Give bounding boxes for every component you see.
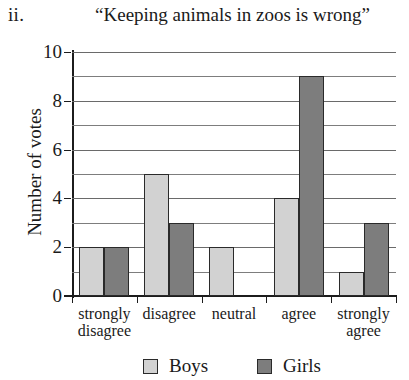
gridline — [72, 52, 396, 53]
x-tick-mark — [266, 296, 267, 303]
bar-chart-figure: ii. “Keeping animals in zoos is wrong” N… — [0, 0, 409, 380]
figure-number-label: ii. — [8, 4, 24, 26]
boys-swatch — [143, 359, 158, 374]
category-label-strongly-agree: stronglyagree — [321, 305, 406, 339]
plot-area — [72, 52, 396, 296]
y-tick-label: 0 — [28, 286, 62, 305]
y-tick-mark — [64, 247, 71, 248]
bar-boys-disagree — [144, 174, 169, 296]
y-tick-label: 8 — [28, 91, 62, 110]
y-tick-label: 2 — [28, 237, 62, 256]
x-tick-mark — [72, 296, 73, 303]
x-tick-mark — [331, 296, 332, 303]
gridline — [72, 174, 396, 175]
chart-title: “Keeping animals in zoos is wrong” — [60, 4, 405, 26]
bar-boys-strongly-disagree — [79, 247, 104, 296]
gridline — [72, 198, 396, 199]
y-tick-label: 6 — [28, 140, 62, 159]
bar-girls-disagree — [169, 223, 194, 296]
category-label-line: strongly — [321, 305, 406, 322]
x-tick-mark — [137, 296, 138, 303]
y-tick-mark — [64, 296, 71, 297]
gridline — [72, 125, 396, 126]
y-tick-mark — [64, 101, 71, 102]
bar-boys-neutral — [209, 247, 234, 296]
y-tick-mark — [64, 52, 71, 53]
y-tick-mark — [64, 198, 71, 199]
legend-label-girls: Girls — [283, 356, 321, 376]
legend-item-girls: Girls — [257, 355, 321, 377]
bar-girls-strongly-disagree — [104, 247, 129, 296]
gridline — [72, 150, 396, 151]
gridline — [72, 101, 396, 102]
legend-item-boys: Boys — [143, 355, 208, 377]
legend-label-boys: Boys — [169, 356, 208, 376]
girls-swatch — [257, 359, 272, 374]
category-label-line: agree — [321, 322, 406, 339]
bar-boys-agree — [274, 198, 299, 296]
y-tick-label: 4 — [28, 188, 62, 207]
x-tick-mark — [202, 296, 203, 303]
gridline — [72, 223, 396, 224]
y-tick-label: 10 — [28, 42, 62, 61]
gridline — [72, 76, 396, 77]
bar-girls-strongly-agree — [364, 223, 389, 296]
bar-boys-strongly-agree — [339, 272, 364, 296]
chart-legend: BoysGirls — [0, 355, 409, 379]
bar-girls-agree — [299, 76, 324, 296]
y-tick-mark — [64, 150, 71, 151]
x-tick-mark — [396, 296, 397, 303]
